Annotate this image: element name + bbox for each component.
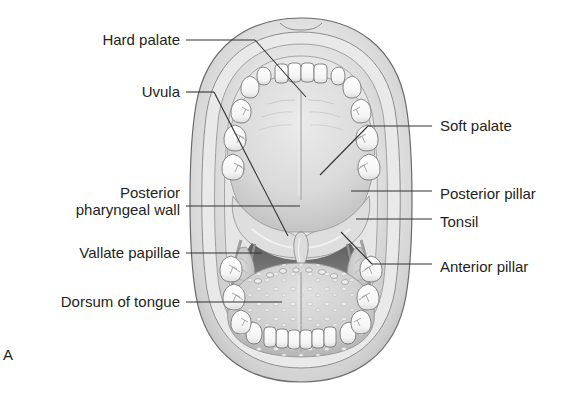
uvula (294, 232, 308, 266)
label-hard-palate: Hard palate (20, 32, 180, 47)
label-posterior-pharyngeal-wall-line1: Posterior (10, 184, 180, 201)
label-anterior-pillar: Anterior pillar (440, 259, 528, 274)
label-tonsil-text: Tonsil (440, 213, 478, 230)
label-posterior-pharyngeal-wall-line2: pharyngeal wall (10, 201, 180, 218)
label-soft-palate-text: Soft palate (440, 117, 512, 134)
label-dorsum-of-tongue-text: Dorsum of tongue (61, 293, 180, 310)
label-anterior-pillar-text: Anterior pillar (440, 258, 528, 275)
label-tonsil: Tonsil (440, 214, 478, 229)
label-vallate-papillae: Vallate papillae (20, 245, 180, 260)
label-hard-palate-text: Hard palate (102, 31, 180, 48)
label-soft-palate: Soft palate (440, 118, 512, 133)
label-posterior-pharyngeal-wall: Posterior pharyngeal wall (10, 184, 180, 218)
label-posterior-pillar-text: Posterior pillar (440, 185, 536, 202)
label-posterior-pillar: Posterior pillar (440, 186, 536, 201)
label-uvula-text: Uvula (142, 83, 180, 100)
label-vallate-papillae-text: Vallate papillae (79, 244, 180, 261)
label-dorsum-of-tongue: Dorsum of tongue (14, 294, 180, 309)
panel-label-a: A (3, 346, 13, 363)
label-uvula: Uvula (20, 84, 180, 99)
